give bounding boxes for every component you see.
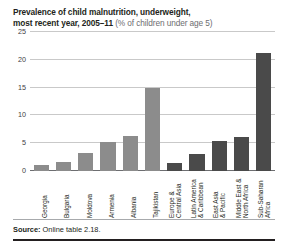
x-label-slot: Armenia xyxy=(97,172,119,218)
y-tick-label-15: 15 xyxy=(18,82,26,91)
x-axis-label-east-asia-pacific: East Asia& Pacific xyxy=(212,172,226,218)
y-tick-label-20: 20 xyxy=(18,54,26,63)
bar-latin-america-caribbean[interactable] xyxy=(189,154,204,171)
x-label-slot: Sub-SaharanAfrica xyxy=(253,172,275,218)
x-label-line-1: Latin America xyxy=(190,179,197,218)
bar-europe-central-asia[interactable] xyxy=(167,163,182,171)
x-axis-label-georgia: Georgia xyxy=(41,172,48,218)
bar-slot xyxy=(75,32,97,171)
bar-slot xyxy=(208,32,230,171)
bar-slot xyxy=(230,32,252,171)
title-subtitle: (% of children under age 5) xyxy=(115,18,212,28)
bar-tajikistan[interactable] xyxy=(145,88,160,171)
y-tick-label-5: 5 xyxy=(22,138,26,147)
source-note: Source: Online table 2.18. xyxy=(13,225,101,234)
x-label-slot: Albania xyxy=(119,172,141,218)
x-label-line-1: Georgia xyxy=(41,195,48,218)
x-label-line-1: Albania xyxy=(130,197,137,218)
x-label-slot: Middle East &North Africa xyxy=(230,172,252,218)
bar-slot xyxy=(119,32,141,171)
x-label-line-1: Moldova xyxy=(86,194,93,218)
title-line-1: Prevalence of child malnutrition, underw… xyxy=(13,7,275,18)
bar-middle-east-north-africa[interactable] xyxy=(234,137,249,171)
footer-rule-bottom xyxy=(13,239,275,241)
x-label-line-2: Africa xyxy=(264,172,271,218)
y-tick-label-0: 0 xyxy=(22,166,26,175)
title-line-2: most recent year, 2005–11 (% of children… xyxy=(13,18,275,29)
x-axis-label-moldova: Moldova xyxy=(86,172,93,218)
y-tick-label-10: 10 xyxy=(18,110,26,119)
bar-sub-saharan-africa[interactable] xyxy=(256,53,271,171)
bar-slot xyxy=(164,32,186,171)
plot-area: 0510152025 xyxy=(30,32,275,171)
x-axis-label-europe-central-asia: Europe &Central Asia xyxy=(168,172,182,218)
x-axis-label-albania: Albania xyxy=(130,172,137,218)
x-label-line-1: Middle East & xyxy=(234,179,241,218)
x-axis-labels: GeorgiaBulgariaMoldovaArmeniaAlbaniaTaji… xyxy=(30,172,275,218)
bar-series xyxy=(30,32,275,171)
x-label-line-1: Armenia xyxy=(108,194,115,218)
chart-title: Prevalence of child malnutrition, underw… xyxy=(13,7,275,28)
x-label-line-2: Central Asia xyxy=(175,172,182,218)
bar-moldova[interactable] xyxy=(78,153,93,171)
x-label-line-2: & Caribbean xyxy=(197,172,204,218)
x-axis-label-middle-east-north-africa: Middle East &North Africa xyxy=(234,172,248,218)
source-text: Online table 2.18. xyxy=(43,225,101,234)
title-line-2-bold: most recent year, 2005–11 xyxy=(13,18,113,28)
x-axis-label-sub-saharan-africa: Sub-SaharanAfrica xyxy=(257,172,271,218)
bar-east-asia-pacific[interactable] xyxy=(212,141,227,171)
bar-albania[interactable] xyxy=(123,136,138,171)
x-label-slot: Tajikistan xyxy=(141,172,163,218)
x-label-line-1: Europe & xyxy=(168,191,175,218)
x-axis-label-armenia: Armenia xyxy=(108,172,115,218)
bar-slot xyxy=(141,32,163,171)
x-label-line-1: Tajikistan xyxy=(152,192,159,218)
bar-slot xyxy=(186,32,208,171)
y-tick-label-25: 25 xyxy=(18,27,26,36)
bar-slot xyxy=(52,32,74,171)
x-axis-label-tajikistan: Tajikistan xyxy=(152,172,159,218)
footer-rule-top xyxy=(13,219,275,220)
x-label-line-2: North Africa xyxy=(242,172,249,218)
x-label-slot: East Asia& Pacific xyxy=(208,172,230,218)
x-label-slot: Bulgaria xyxy=(52,172,74,218)
chart-figure: Prevalence of child malnutrition, underw… xyxy=(0,0,288,245)
bar-slot xyxy=(30,32,52,171)
x-label-slot: Georgia xyxy=(30,172,52,218)
x-axis-label-bulgaria: Bulgaria xyxy=(63,172,70,218)
x-label-line-1: Sub-Saharan xyxy=(257,180,264,218)
x-label-slot: Latin America& Caribbean xyxy=(186,172,208,218)
x-axis-label-latin-america-caribbean: Latin America& Caribbean xyxy=(190,172,204,218)
bar-georgia[interactable] xyxy=(34,165,49,171)
bar-slot xyxy=(97,32,119,171)
bar-slot xyxy=(253,32,275,171)
x-label-slot: Moldova xyxy=(75,172,97,218)
x-label-slot: Europe &Central Asia xyxy=(164,172,186,218)
x-label-line-2: & Pacific xyxy=(219,172,226,218)
bar-bulgaria[interactable] xyxy=(56,162,71,171)
source-label: Source: xyxy=(13,225,41,234)
x-label-line-1: Bulgaria xyxy=(63,195,70,218)
x-label-line-1: East Asia xyxy=(212,191,219,218)
bar-armenia[interactable] xyxy=(100,142,115,171)
